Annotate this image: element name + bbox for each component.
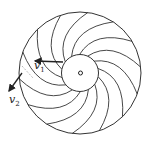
blade	[94, 61, 137, 94]
blade	[72, 22, 114, 57]
blade	[28, 91, 81, 108]
blade	[80, 38, 133, 55]
blade	[98, 77, 109, 131]
blade	[47, 89, 89, 124]
blade	[72, 84, 97, 133]
impeller-diagram	[0, 0, 149, 146]
v2-label: v2	[9, 94, 20, 108]
hub	[62, 55, 99, 92]
v1-label: v1	[34, 60, 45, 74]
blade	[63, 12, 88, 61]
blade	[98, 68, 123, 116]
